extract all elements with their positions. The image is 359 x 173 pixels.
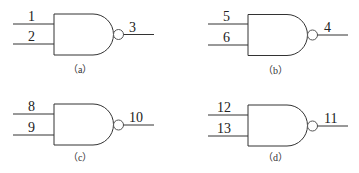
gate-d: 12 13 11 （d）: [208, 100, 348, 163]
gate-a-caption: （a）: [68, 64, 92, 75]
nand-gates-diagram: 1 2 3 （a） 5 6 4 （b） 8 9 10 （c） 12 13 11: [0, 0, 359, 173]
gate-c-input-1-label: 8: [28, 99, 35, 114]
gate-a-inverter-bubble: [114, 30, 124, 40]
gate-a: 1 2 3 （a）: [13, 9, 154, 75]
gate-c-output-label: 10: [129, 110, 143, 125]
gate-c-nand-body: [54, 104, 114, 145]
gate-c-caption: （c）: [68, 152, 92, 163]
gate-a-input-1-label: 1: [28, 9, 35, 24]
gate-c-inverter-bubble: [114, 120, 124, 130]
gate-c: 8 9 10 （c）: [13, 99, 154, 163]
gate-b-inverter-bubble: [308, 30, 318, 40]
gate-d-nand-body: [248, 105, 307, 146]
gate-b: 5 6 4 （b）: [208, 9, 348, 76]
gate-a-input-2-label: 2: [28, 29, 35, 44]
gate-a-nand-body: [54, 14, 113, 55]
gate-b-input-1-label: 5: [223, 9, 230, 24]
gate-d-inverter-bubble: [308, 121, 318, 131]
gate-c-input-2-label: 9: [28, 120, 35, 135]
gate-b-caption: （b）: [263, 65, 288, 76]
gate-d-output-label: 11: [324, 111, 337, 126]
gate-a-output-label: 3: [129, 20, 136, 35]
gate-b-input-2-label: 6: [223, 30, 230, 45]
gate-d-input-1-label: 12: [217, 100, 231, 115]
gate-b-output-label: 4: [324, 20, 331, 35]
gate-d-input-2-label: 13: [217, 121, 231, 136]
gate-d-caption: （d）: [263, 152, 288, 163]
gate-b-nand-body: [248, 15, 307, 56]
